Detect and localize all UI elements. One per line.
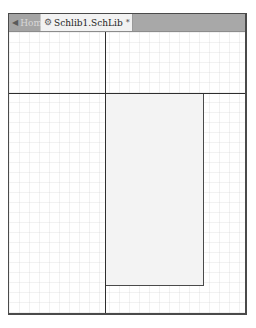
tab-bar-filler: [133, 14, 245, 31]
schematic-library-icon: ⚙: [44, 18, 52, 27]
tab-home[interactable]: ◀ Home: [9, 14, 41, 31]
origin-vertical-axis: [105, 32, 106, 313]
schematic-canvas[interactable]: [9, 32, 245, 313]
tab-schlib-label: Schlib1.SchLib: [54, 18, 123, 28]
tab-schlib1-schlib[interactable]: ⚙ Schlib1.SchLib *: [41, 14, 133, 31]
origin-horizontal-axis: [9, 93, 245, 94]
component-body-rectangle[interactable]: [105, 93, 204, 286]
modified-marker: *: [126, 18, 130, 27]
document-tab-bar: ◀ Home ⚙ Schlib1.SchLib *: [9, 14, 245, 32]
back-arrow-icon: ◀: [12, 19, 18, 27]
schematic-library-editor-window: ◀ Home ⚙ Schlib1.SchLib *: [8, 13, 247, 315]
